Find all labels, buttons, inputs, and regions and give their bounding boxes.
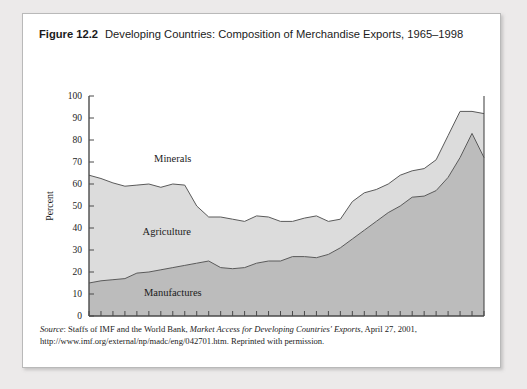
y-axis-title-group: Percent [44, 191, 55, 221]
y-axis-tick-label: 40 [73, 223, 83, 233]
series-label-minerals: Minerals [154, 153, 191, 164]
source-label: Source [40, 324, 64, 334]
y-axis-tick-label: 10 [73, 289, 83, 299]
series-label-agriculture: Agriculture [143, 226, 192, 237]
chart-plot-area: 0102030405060708090100 19651970197519801… [23, 60, 500, 322]
source-text-before: : Staffs of IMF and the World Bank, [64, 324, 190, 334]
area-bands-group [89, 96, 484, 316]
stacked-area-chart: 0102030405060708090100 19651970197519801… [23, 60, 500, 322]
figure-card: Figure 12.2Developing Countries: Composi… [22, 13, 501, 368]
y-axis-tick-label: 70 [73, 157, 83, 167]
y-axis-tick-label: 90 [73, 113, 83, 123]
figure-caption: Developing Countries: Composition of Mer… [105, 28, 463, 40]
y-axis-tick-label: 0 [77, 311, 82, 321]
y-axis-tick-label: 50 [73, 201, 83, 211]
y-axis-tick-label: 80 [73, 135, 83, 145]
source-italic-title: Market Access for Developing Countries' … [190, 324, 361, 334]
y-axis-title: Percent [44, 191, 55, 221]
y-axis-tick-label: 60 [73, 179, 83, 189]
y-axis-tick-label: 100 [68, 91, 83, 101]
series-label-manufactures: Manufactures [144, 287, 202, 298]
source-note: Source: Staffs of IMF and the World Bank… [40, 324, 484, 347]
y-axis-tick-label: 30 [73, 245, 83, 255]
figure-title: Figure 12.2Developing Countries: Composi… [39, 27, 484, 42]
y-axis-tick-label: 20 [73, 267, 83, 277]
figure-number: Figure 12.2 [39, 27, 105, 42]
